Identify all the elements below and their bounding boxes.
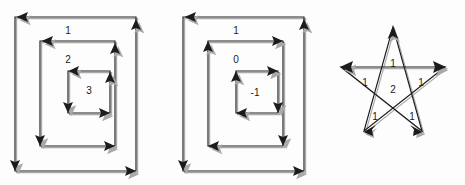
panel-pentagram-star: 1 1 1 2 1 1 (340, 26, 448, 138)
star-label-center: 2 (390, 84, 396, 95)
star-label-bottom-left: 1 (372, 111, 378, 122)
panel2-label-0: 0 (233, 54, 239, 65)
figure-canvas: 1 2 3 (0, 0, 465, 185)
star-label-top: 1 (390, 58, 396, 69)
panel2-label-minus1: -1 (251, 87, 260, 98)
panel1-label-3: 3 (86, 85, 92, 96)
panel2-label-1: 1 (233, 25, 239, 36)
star-label-left: 1 (362, 77, 368, 88)
panel1-label-1: 1 (65, 25, 71, 36)
star-outline (340, 26, 448, 138)
panel-nested-squares-counterclockwise: 1 2 3 (10, 12, 144, 179)
star-label-right: 1 (418, 77, 424, 88)
star-label-bottom-right: 1 (409, 111, 415, 122)
loop-outer-1 (10, 12, 144, 179)
loop-outer-1b (178, 12, 312, 179)
winding-number-figure: 1 2 3 (0, 0, 465, 185)
panel1-label-2: 2 (65, 54, 71, 65)
panel-nested-squares-mixed: 1 0 -1 (178, 12, 312, 179)
